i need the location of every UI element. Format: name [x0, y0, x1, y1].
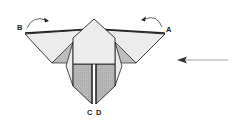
label-c: C — [87, 108, 93, 117]
lower-flaps — [73, 64, 115, 104]
label-a: A — [166, 25, 172, 34]
direction-arrow — [177, 57, 228, 64]
origami-diagram: B A C D — [0, 0, 240, 126]
label-b: B — [17, 23, 23, 32]
center-head — [73, 19, 115, 64]
fold-arrow-a — [141, 17, 162, 28]
fold-arrow-b — [27, 18, 49, 29]
label-d: D — [96, 108, 102, 117]
